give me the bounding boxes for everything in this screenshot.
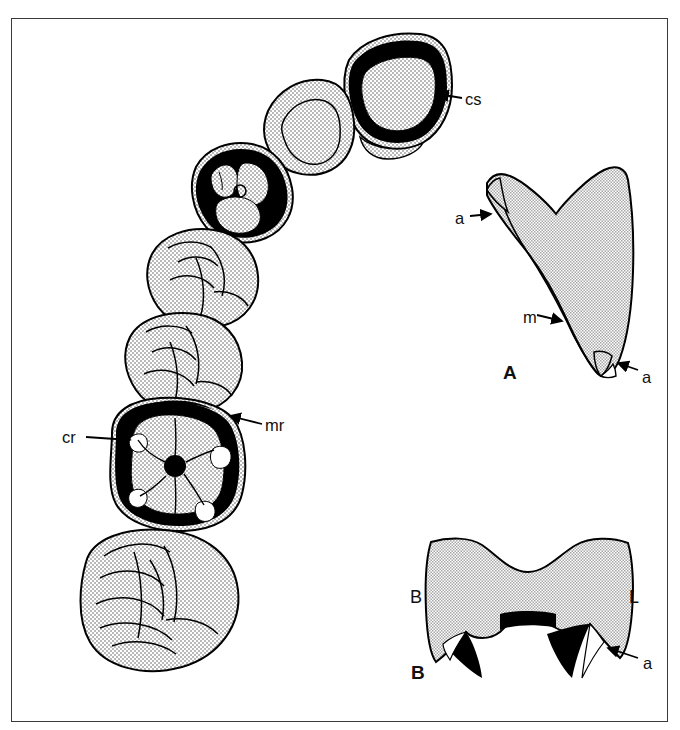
label-mr: mr [265, 417, 284, 434]
panel-A-group [470, 167, 638, 377]
tooth-6-central-pit [164, 455, 186, 477]
label-cr: cr [62, 429, 76, 446]
tooth-6-group [110, 398, 245, 531]
tooth-1-group [344, 33, 452, 159]
arrow-a-left-panelA [470, 214, 491, 216]
panel-B-group [426, 539, 638, 678]
panel-label-b: B [411, 663, 425, 682]
tooth-7-group [81, 530, 239, 672]
figure-root: cs mr cr a m a A B L a B [0, 0, 680, 730]
label-cs: cs [465, 91, 482, 108]
figure-illustration [0, 0, 680, 730]
tooth-3-group [192, 143, 293, 242]
panel-A-outline [487, 167, 633, 376]
label-lingual-l: L [629, 588, 639, 606]
panel-label-a: A [503, 363, 517, 382]
label-a-panel-b: a [643, 655, 652, 672]
arrow-m-panelA [537, 315, 562, 321]
tooth-4-group [147, 229, 258, 328]
label-a-upper-panel-a: a [455, 210, 464, 227]
arrow-a-lower-panelA [618, 363, 638, 370]
label-a-lower-panel-a: a [642, 369, 651, 386]
label-m-panel-a: m [523, 309, 537, 326]
tooth-1-inner-stipple [362, 57, 436, 131]
label-buccal-b: B [410, 588, 422, 606]
panel-B-black-bar-central [500, 611, 556, 630]
